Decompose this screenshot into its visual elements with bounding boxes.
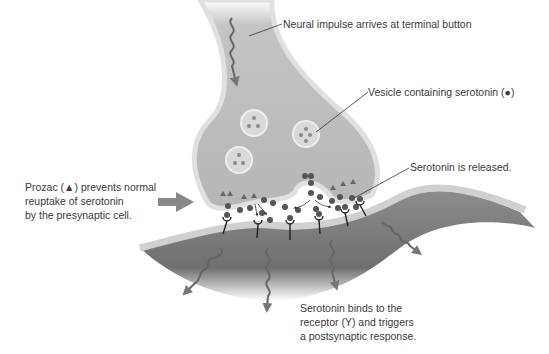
label-neural-impulse: Neural impulse arrives at terminal butto…: [283, 17, 472, 31]
block-arrow-icon: [158, 192, 194, 212]
label-serotonin-binds: Serotonin binds to the receptor (Υ) and …: [300, 301, 416, 343]
synapse-diagram: [0, 0, 549, 354]
presynaptic-terminal: [194, 0, 377, 208]
postsynaptic-cell: [140, 188, 535, 301]
label-serotonin-released: Serotonin is released.: [410, 160, 512, 174]
label-vesicle: Vesicle containing serotonin (●): [368, 85, 514, 99]
label-prozac: Prozac (▲) prevents normal reuptake of s…: [25, 180, 156, 222]
